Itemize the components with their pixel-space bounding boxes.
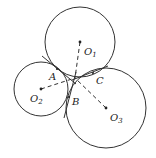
dashed-o1-to-center	[75, 42, 80, 78]
label-c: C	[96, 75, 104, 86]
label-o1: O1	[84, 46, 97, 59]
label-o2: O2	[30, 93, 43, 106]
point-c	[92, 72, 94, 74]
point-b	[68, 96, 70, 98]
center-dot-o2	[40, 88, 43, 91]
three-tangent-circles-diagram: O1 O2 O3 A B C	[0, 0, 156, 158]
center-dot-o1	[79, 41, 82, 44]
point-a	[56, 68, 58, 70]
dashed-o2-to-center	[41, 78, 75, 89]
center-dot-o3	[105, 107, 108, 110]
label-o3: O3	[110, 112, 123, 125]
label-a: A	[48, 71, 56, 82]
label-b: B	[71, 96, 79, 107]
